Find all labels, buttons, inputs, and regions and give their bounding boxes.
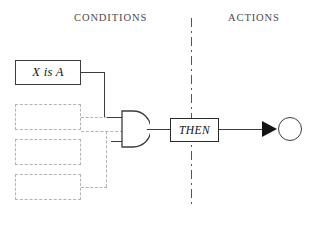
condition-box-label: X is A	[32, 65, 63, 80]
connector-then-to-output	[219, 129, 265, 130]
then-box-label: THEN	[179, 124, 210, 136]
actions-column-header: ACTIONS	[228, 12, 280, 23]
then-box[interactable]: THEN	[170, 118, 219, 142]
connector-condition-segment-h1	[81, 72, 105, 73]
placeholder-condition-box-3[interactable]	[15, 174, 81, 200]
connector-placeholder-segment-3	[106, 131, 107, 187]
connector-condition-segment-v1	[104, 72, 105, 118]
connector-placeholder-segment-2	[81, 131, 123, 132]
placeholder-condition-box-2[interactable]	[15, 139, 81, 165]
column-divider	[191, 18, 192, 206]
and-gate-output-line	[147, 129, 171, 130]
connector-placeholder-segment-1	[81, 117, 107, 118]
and-gate-icon[interactable]	[120, 110, 150, 148]
conditions-column-header: CONDITIONS	[74, 12, 147, 23]
arrowhead-icon	[262, 121, 277, 137]
placeholder-condition-box-1[interactable]	[15, 104, 81, 130]
condition-box-x-is-a[interactable]: X is A	[15, 60, 81, 85]
diagram-canvas: CONDITIONS ACTIONS X is A THEN	[0, 0, 312, 226]
connector-placeholder-segment-4	[81, 187, 107, 188]
output-circle-node[interactable]	[278, 117, 302, 141]
